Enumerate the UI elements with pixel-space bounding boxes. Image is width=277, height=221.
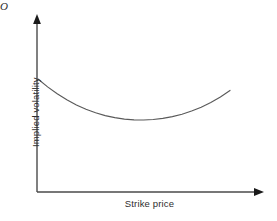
y-axis-arrowhead-icon xyxy=(33,14,41,24)
x-axis-arrowhead-icon xyxy=(254,188,264,196)
y-axis-label: Implied volatility xyxy=(31,77,41,147)
volatility-smile-figure: Implied volatility Strike price O xyxy=(0,0,277,221)
x-axis-label: Strike price xyxy=(0,199,277,209)
volatility-smile-curve xyxy=(38,79,230,120)
chart-canvas xyxy=(0,0,277,221)
